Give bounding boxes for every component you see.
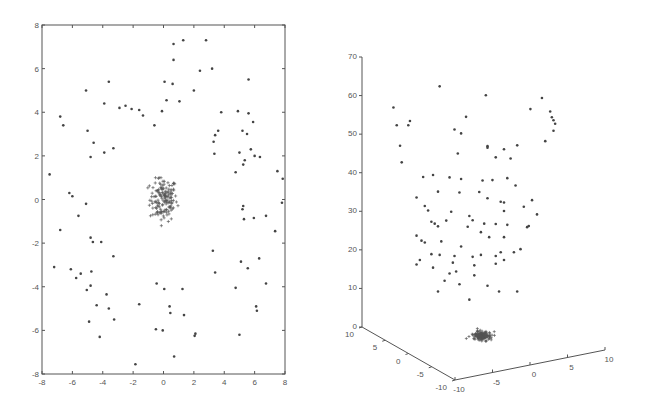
data-point bbox=[243, 218, 246, 221]
data-point bbox=[526, 226, 529, 229]
data-point bbox=[460, 178, 463, 181]
x-tick-label: -6 bbox=[69, 378, 77, 387]
data-point bbox=[255, 305, 258, 308]
data-point bbox=[531, 199, 534, 202]
data-point bbox=[536, 213, 539, 216]
data-point bbox=[488, 236, 491, 239]
y-tick bbox=[406, 354, 409, 355]
data-point bbox=[478, 191, 481, 194]
data-point bbox=[259, 156, 262, 159]
data-point bbox=[246, 267, 249, 270]
figure-canvas: -8-6-4-202468-8-6-4-202468 0102030405060… bbox=[0, 0, 646, 410]
data-point bbox=[108, 80, 111, 83]
data-point bbox=[506, 224, 509, 227]
data-point bbox=[142, 114, 145, 117]
data-point bbox=[541, 97, 544, 100]
data-point bbox=[220, 111, 223, 114]
data-point bbox=[169, 312, 172, 315]
cluster-point bbox=[151, 192, 154, 195]
x-tick-label: -8 bbox=[38, 378, 46, 387]
data-point bbox=[88, 320, 91, 323]
data-point bbox=[437, 290, 440, 293]
data-point bbox=[432, 174, 435, 177]
data-point bbox=[70, 268, 73, 271]
data-point bbox=[138, 109, 141, 112]
data-point bbox=[153, 124, 156, 127]
data-point bbox=[168, 305, 171, 308]
data-point bbox=[59, 115, 62, 118]
data-point bbox=[483, 222, 486, 225]
y-tick-label: -4 bbox=[32, 283, 40, 292]
y-tick-label: 10 bbox=[345, 330, 354, 339]
data-point bbox=[48, 173, 51, 176]
data-point bbox=[506, 177, 509, 180]
data-point bbox=[465, 116, 468, 119]
data-point bbox=[448, 272, 451, 275]
data-point bbox=[433, 222, 436, 225]
z-tick-label: 30 bbox=[348, 206, 357, 215]
y-tick-label: -6 bbox=[32, 326, 40, 335]
data-point bbox=[509, 157, 512, 160]
z-tick-label: 60 bbox=[348, 91, 357, 100]
data-point bbox=[193, 335, 196, 338]
data-point bbox=[445, 219, 448, 222]
data-point bbox=[165, 99, 168, 102]
data-point bbox=[113, 318, 116, 321]
y-tick-label: -2 bbox=[32, 239, 40, 248]
data-point bbox=[205, 39, 208, 42]
data-point bbox=[437, 225, 440, 228]
y-tick-label: 6 bbox=[35, 65, 40, 74]
cluster-point bbox=[168, 184, 171, 187]
data-point bbox=[86, 289, 89, 292]
data-point bbox=[440, 240, 443, 243]
data-point bbox=[481, 179, 484, 182]
x-tick-label: 10 bbox=[605, 355, 614, 364]
cluster-point bbox=[174, 194, 177, 197]
z-tick-label: 10 bbox=[348, 283, 357, 292]
data-point bbox=[422, 176, 425, 179]
cluster-point bbox=[467, 335, 470, 338]
scatter-2d-plot: -8-6-4-202468-8-6-4-202468 bbox=[32, 21, 288, 387]
y-tick-label: 5 bbox=[373, 343, 378, 352]
data-point bbox=[552, 119, 555, 122]
data-point bbox=[103, 102, 106, 105]
cluster-point bbox=[151, 206, 154, 209]
x-tick-label: 4 bbox=[222, 378, 227, 387]
data-point bbox=[471, 219, 474, 222]
data-point bbox=[178, 100, 181, 103]
data-point bbox=[452, 261, 455, 264]
data-point bbox=[466, 225, 469, 228]
data-point bbox=[437, 190, 440, 193]
data-point bbox=[516, 144, 519, 147]
cluster-point bbox=[161, 203, 164, 206]
data-point bbox=[513, 251, 516, 254]
y-tick-label: -10 bbox=[435, 383, 447, 392]
data-point bbox=[458, 191, 461, 194]
data-point bbox=[503, 259, 506, 262]
data-point bbox=[523, 205, 526, 208]
data-point bbox=[105, 293, 108, 296]
data-point bbox=[455, 270, 458, 273]
data-point bbox=[250, 148, 253, 151]
data-point bbox=[443, 279, 446, 282]
data-point bbox=[453, 255, 456, 258]
y-tick bbox=[382, 340, 385, 341]
data-point bbox=[247, 78, 250, 81]
data-point bbox=[265, 215, 268, 218]
data-point bbox=[112, 147, 115, 150]
data-point bbox=[458, 283, 461, 286]
data-point bbox=[212, 249, 215, 252]
data-point bbox=[552, 129, 555, 132]
z-tick-label: 50 bbox=[348, 129, 357, 138]
x-tick-label: -2 bbox=[130, 378, 138, 387]
cluster-point bbox=[154, 176, 157, 179]
data-point bbox=[516, 290, 519, 293]
data-point bbox=[258, 257, 261, 260]
data-point bbox=[450, 210, 453, 213]
z-tick-label: 20 bbox=[348, 245, 357, 254]
data-point bbox=[415, 263, 418, 266]
data-point bbox=[419, 259, 422, 262]
x-tick-label: 5 bbox=[569, 363, 574, 372]
data-point bbox=[438, 85, 441, 88]
data-point bbox=[424, 241, 427, 244]
